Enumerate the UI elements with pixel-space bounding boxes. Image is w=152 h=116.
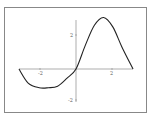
y-tick-label-pos: 2 [70,32,73,38]
plot-area: -2 2 2 -2 [0,0,152,116]
x-tick-label-pos: 2 [110,70,113,76]
y-tick-label-neg: -2 [68,97,73,103]
x-tick-label-neg: -2 [38,70,43,76]
